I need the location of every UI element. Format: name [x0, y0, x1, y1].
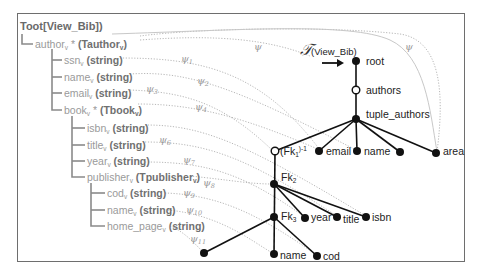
label-year: year [311, 211, 332, 223]
label-email: email [326, 145, 351, 157]
psi-2-label: ψ2 [197, 75, 209, 88]
node-email [315, 147, 323, 155]
node-publisher-name [270, 250, 278, 258]
node-year [301, 214, 309, 222]
label-authors: authors [366, 84, 401, 96]
node-name [353, 147, 361, 155]
label-cod: cod [323, 250, 340, 262]
label-title: title [343, 213, 360, 225]
node-root [352, 57, 360, 65]
graph-title-sub: (View_Bib) [311, 46, 357, 57]
label-fk2: Fk2 [281, 171, 297, 184]
label-fk1-inverse: (Fk1)-1 [280, 145, 307, 158]
node-home-page [200, 249, 208, 257]
node-authors [352, 86, 360, 94]
graph-labels: root authors tuple_authors (Fk1)-1 email… [280, 55, 464, 262]
label-fk3: Fk3 [281, 210, 297, 223]
schema-item-title: titlev (string) [87, 139, 146, 152]
psi-label: ψ [405, 41, 413, 52]
schema-item-ssn: ssnv (string) [64, 54, 123, 67]
schema-item-cod: codv (string) [107, 187, 166, 200]
psi-4-label: ψ4 [195, 101, 207, 114]
schema-item-email: emailv (string) [64, 87, 131, 100]
label-tuple-authors: tuple_authors [366, 108, 430, 120]
schema-item-isbn: isbnv (string) [87, 122, 149, 135]
schema-tree: Toot[View_Bib]) authorv * (Tauthorv) ssn… [20, 20, 205, 233]
label-publisher-name: name [280, 249, 306, 261]
node-fk1-inverse [271, 147, 279, 155]
psi-6-label: ψ6 [159, 134, 171, 147]
psi-10-label: ψ10 [186, 204, 202, 217]
schema-item-home-page: home_pagev (string) [107, 220, 205, 233]
psi-7-label: ψ7 [183, 154, 196, 167]
psi-3-label: ψ3 [146, 83, 158, 96]
graph-edges [204, 61, 436, 256]
node-tuple-authors [352, 115, 360, 123]
schema-item-year: yearv (string) [87, 155, 150, 168]
arrow-head-icon [337, 59, 344, 67]
node-fk3 [270, 213, 278, 221]
schema-root-label: Toot[View_Bib]) [20, 20, 103, 32]
label-isbn: isbn [372, 211, 391, 223]
psi-1-label: ψ1 [181, 53, 193, 66]
schema-item-publisher: publisherv (Tpublisherv) [87, 171, 200, 184]
psi-label: ψ [254, 41, 262, 52]
node-title [333, 213, 341, 221]
label-area: area [443, 145, 464, 157]
schema-item-author: authorv * (Tauthorv) [35, 38, 127, 51]
graph-title: 𝒯 (View_Bib) [300, 40, 357, 67]
schema-item-publisher-name: namev (string) [107, 204, 176, 217]
node-area [432, 149, 440, 157]
label-root: root [366, 55, 384, 67]
schema-item-name: namev (string) [64, 71, 133, 84]
node-isbn [362, 213, 370, 221]
psi-11-label: ψ11 [190, 233, 206, 246]
node-unlabeled [396, 148, 404, 156]
graph-nodes [200, 57, 440, 260]
node-fk2 [270, 180, 278, 188]
node-cod [313, 252, 321, 260]
schema-item-book: bookv * (Tbookv) [64, 104, 142, 117]
diagram-canvas: Toot[View_Bib]) authorv * (Tauthorv) ssn… [0, 0, 480, 280]
label-name: name [364, 145, 390, 157]
psi-9-label: ψ9 [183, 187, 195, 200]
